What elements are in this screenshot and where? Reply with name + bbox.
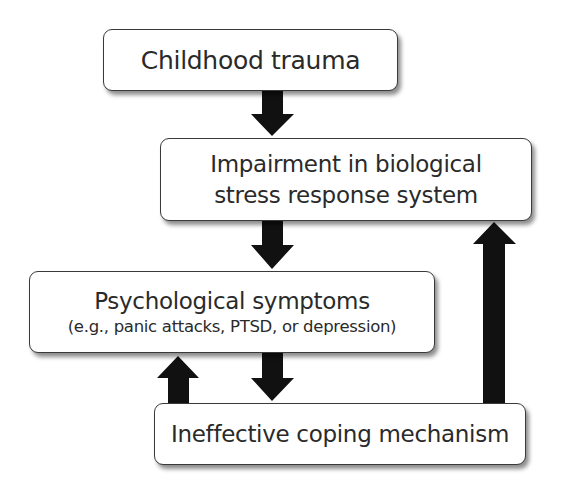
node-label-line-2: stress response system — [214, 180, 478, 211]
node-label: Childhood trauma — [141, 46, 360, 75]
node-psychological-symptoms: Psychological symptoms (e.g., panic atta… — [29, 271, 435, 353]
node-label: Psychological symptoms — [94, 286, 370, 316]
node-childhood-trauma: Childhood trauma — [103, 29, 398, 91]
node-label-line-1: Impairment in biological — [210, 149, 482, 180]
node-sublabel-examples: (e.g., panic attacks, PTSD, or depressio… — [68, 316, 397, 338]
arrow-up-coping-to-impairment — [473, 222, 516, 403]
arrow-down-trauma-to-impairment — [251, 91, 294, 136]
arrow-up-coping-to-symptoms — [157, 356, 199, 403]
node-ineffective-coping: Ineffective coping mechanism — [154, 403, 526, 465]
arrow-down-symptoms-to-coping — [251, 353, 294, 401]
node-label: Ineffective coping mechanism — [171, 421, 509, 447]
arrow-down-impairment-to-symptoms — [251, 221, 294, 269]
node-impairment-stress-response: Impairment in biological stress response… — [160, 138, 532, 221]
